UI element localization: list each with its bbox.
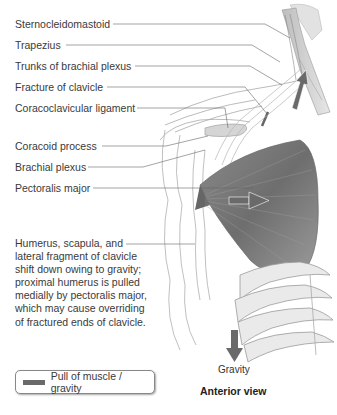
- gravity-label: Gravity: [218, 364, 250, 375]
- label-trunks-brachial-plexus: Trunks of brachial plexus: [15, 60, 131, 72]
- arm-region: [162, 130, 210, 350]
- label-trapezius: Trapezius: [15, 39, 61, 51]
- rib-cage: [235, 262, 334, 362]
- view-caption: Anterior view: [200, 385, 267, 397]
- label-sternocleidomastoid: Sternocleidomastoid: [15, 18, 110, 30]
- explanatory-note: Humerus, scapula, and lateral fragment o…: [15, 237, 165, 329]
- label-brachial-plexus: Brachial plexus: [15, 161, 86, 173]
- legend-box: Pull of muscle / gravity: [15, 370, 155, 394]
- shoulder-region: [160, 80, 300, 140]
- label-coracoid-process: Coracoid process: [15, 140, 97, 152]
- legend-label: Pull of muscle / gravity: [51, 370, 154, 394]
- neck-region: [282, 4, 330, 115]
- neck-pull-arrow: [292, 70, 308, 110]
- label-coracoclavicular-ligament: Coracoclavicular ligament: [15, 102, 135, 114]
- label-pectoralis-major: Pectoralis major: [15, 182, 90, 194]
- pectoralis-major-muscle: [195, 140, 318, 273]
- arrow-swatch-icon: [23, 380, 45, 385]
- label-fracture-clavicle: Fracture of clavicle: [15, 81, 103, 93]
